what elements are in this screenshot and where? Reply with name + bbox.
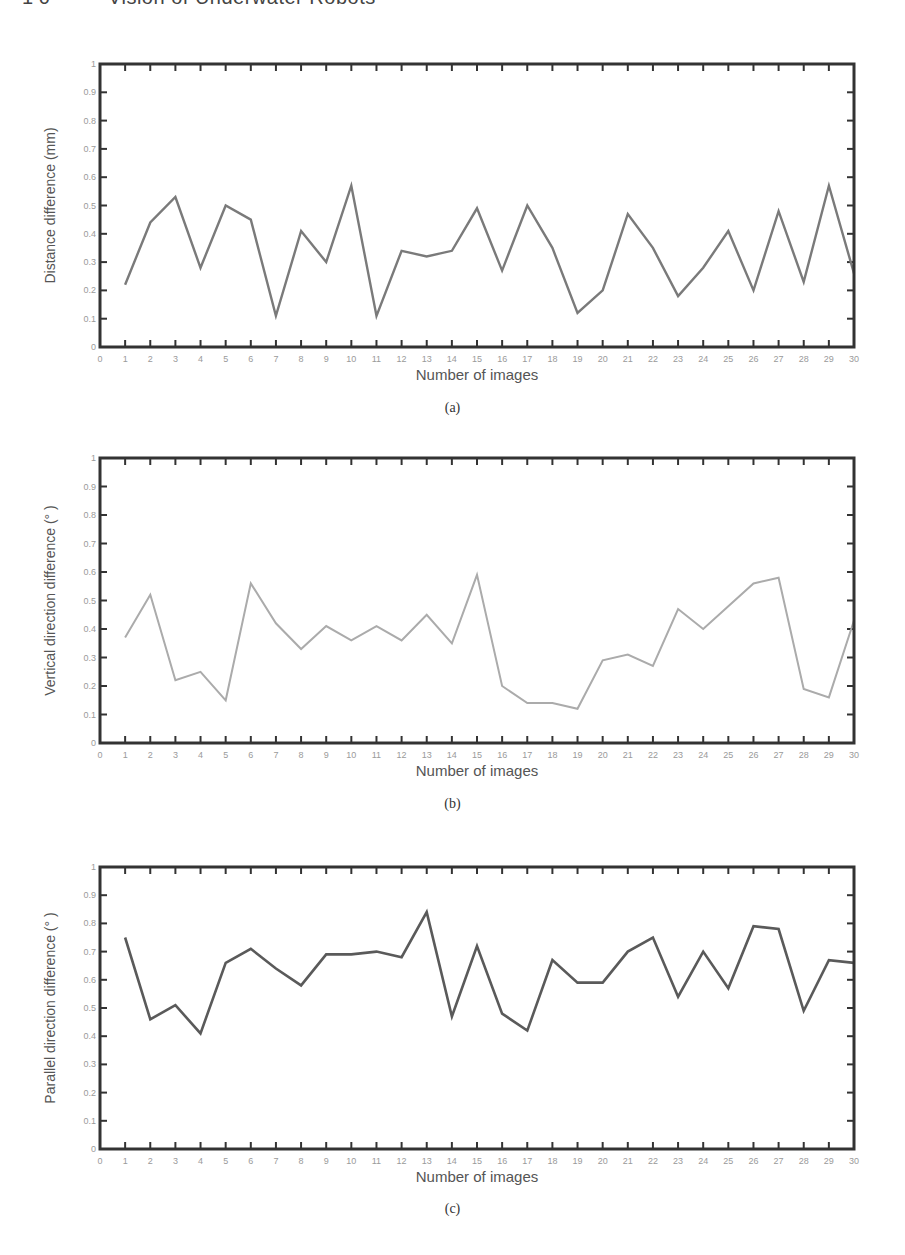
svg-text:0.7: 0.7 — [83, 947, 96, 957]
axes-frame — [100, 867, 854, 1149]
svg-text:1: 1 — [123, 1156, 128, 1166]
svg-text:1: 1 — [91, 862, 96, 872]
svg-text:4: 4 — [198, 1156, 203, 1166]
svg-text:0: 0 — [91, 1144, 96, 1154]
svg-text:16: 16 — [497, 1156, 507, 1166]
svg-text:13: 13 — [422, 1156, 432, 1166]
svg-text:7: 7 — [273, 1156, 278, 1166]
line-chart: 0123456789101112131415161718192021222324… — [0, 0, 905, 1255]
x-tick-labels: 0123456789101112131415161718192021222324… — [97, 1156, 859, 1166]
svg-text:3: 3 — [173, 1156, 178, 1166]
svg-text:30: 30 — [849, 1156, 859, 1166]
svg-text:12: 12 — [397, 1156, 407, 1166]
svg-text:24: 24 — [698, 1156, 708, 1166]
svg-text:26: 26 — [748, 1156, 758, 1166]
svg-text:23: 23 — [673, 1156, 683, 1166]
svg-text:0.8: 0.8 — [83, 918, 96, 928]
svg-text:17: 17 — [522, 1156, 532, 1166]
svg-text:28: 28 — [799, 1156, 809, 1166]
svg-text:5: 5 — [223, 1156, 228, 1166]
svg-text:0.9: 0.9 — [83, 890, 96, 900]
svg-text:0.4: 0.4 — [83, 1031, 96, 1041]
svg-text:0.3: 0.3 — [83, 1059, 96, 1069]
svg-text:11: 11 — [372, 1156, 381, 1166]
y-tick-labels: 00.10.20.30.40.50.60.70.80.91 — [83, 862, 96, 1154]
svg-text:18: 18 — [547, 1156, 557, 1166]
svg-text:2: 2 — [148, 1156, 153, 1166]
svg-text:6: 6 — [248, 1156, 253, 1166]
svg-text:19: 19 — [573, 1156, 583, 1166]
svg-text:29: 29 — [824, 1156, 834, 1166]
svg-text:0: 0 — [97, 1156, 102, 1166]
svg-text:10: 10 — [346, 1156, 356, 1166]
data-series-line — [125, 912, 854, 1033]
y-axis-label: Parallel direction difference (° ) — [42, 912, 58, 1103]
svg-text:22: 22 — [648, 1156, 658, 1166]
svg-text:0.5: 0.5 — [83, 1003, 96, 1013]
svg-text:25: 25 — [723, 1156, 733, 1166]
svg-text:8: 8 — [299, 1156, 304, 1166]
svg-text:9: 9 — [324, 1156, 329, 1166]
svg-text:0.6: 0.6 — [83, 975, 96, 985]
svg-text:27: 27 — [774, 1156, 784, 1166]
svg-text:20: 20 — [598, 1156, 608, 1166]
svg-text:0.1: 0.1 — [83, 1116, 96, 1126]
svg-text:14: 14 — [447, 1156, 457, 1166]
axis-ticks — [100, 867, 854, 1149]
x-axis-label: Number of images — [416, 1168, 539, 1185]
figure-caption: (c) — [0, 1201, 905, 1217]
svg-text:15: 15 — [472, 1156, 482, 1166]
svg-text:0.2: 0.2 — [83, 1088, 96, 1098]
svg-text:21: 21 — [623, 1156, 633, 1166]
